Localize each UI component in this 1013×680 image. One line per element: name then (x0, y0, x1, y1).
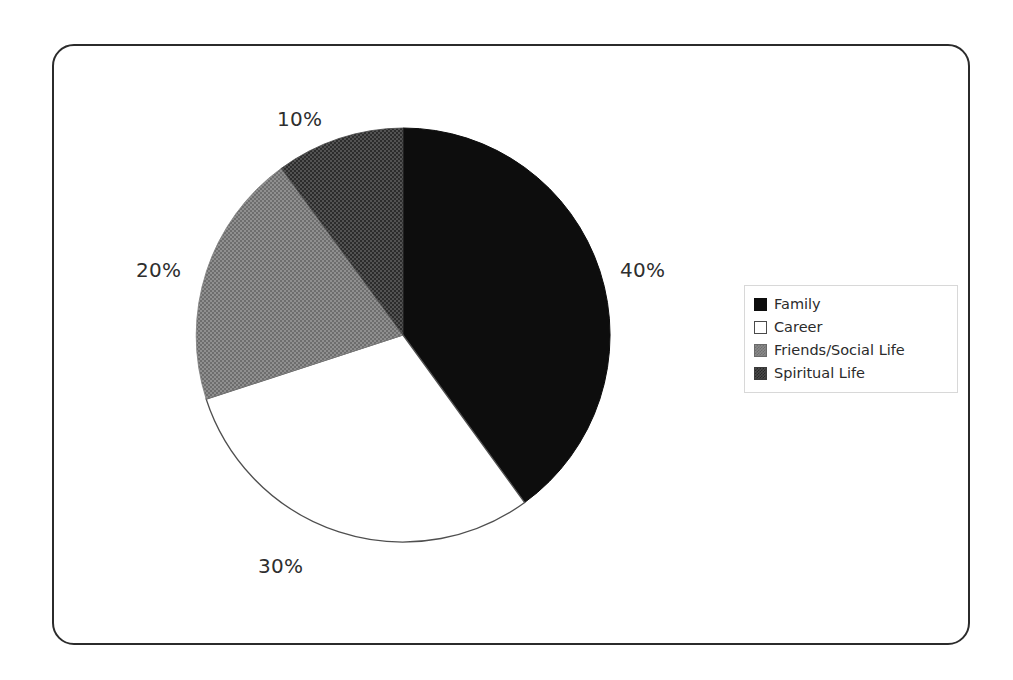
legend-item-friends-social-life[interactable]: Friends/Social Life (754, 339, 949, 362)
pie-chart-stage: 40% 30% 20% 10% Family Career Friends/So… (0, 0, 1013, 680)
pie-chart-graphic (186, 118, 620, 552)
data-label-career: 30% (258, 554, 303, 578)
legend-item-career[interactable]: Career (754, 316, 949, 339)
legend-item-family[interactable]: Family (754, 293, 949, 316)
legend-label-friends-social-life: Friends/Social Life (774, 343, 905, 358)
data-label-spiritual-life: 10% (277, 107, 322, 131)
legend-item-spiritual-life[interactable]: Spiritual Life (754, 362, 949, 385)
legend-label-family: Family (774, 297, 821, 312)
legend-label-spiritual-life: Spiritual Life (774, 366, 865, 381)
chart-legend: Family Career Friends/Social Life Spirit… (744, 285, 958, 393)
legend-swatch-family-icon (754, 298, 767, 311)
data-label-family: 40% (620, 258, 665, 282)
data-label-friends-social-life: 20% (136, 258, 181, 282)
legend-label-career: Career (774, 320, 822, 335)
legend-swatch-career-icon (754, 321, 767, 334)
legend-swatch-spiritual-life-icon (754, 367, 767, 380)
legend-swatch-friends-social-life-icon (754, 344, 767, 357)
